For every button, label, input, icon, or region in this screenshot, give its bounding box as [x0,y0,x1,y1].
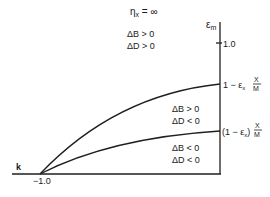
svg-text:X: X [255,122,260,129]
lower-curve-label: (1 − εx) X M [222,122,262,138]
svg-text:X: X [254,76,259,83]
region-middle: ΔB > 0 ΔD < 0 [172,104,200,126]
svg-text:ΔD < 0: ΔD < 0 [172,155,200,165]
diagram: ηx = ∞ 1.0 εm k −1.0 1 − εx X M (1 − εx)… [0,0,270,197]
x-tick-label: −1.0 [33,176,51,186]
svg-text:M: M [253,85,259,92]
svg-text:ΔB < 0: ΔB < 0 [172,143,199,153]
svg-text:ΔB > 0: ΔB > 0 [127,29,154,39]
svg-text:1 − εx: 1 − εx [223,80,245,91]
upper-curve-label: 1 − εx X M [223,76,261,92]
region-upper: ΔB > 0 ΔD > 0 [127,29,155,51]
y-tick-label: 1.0 [223,39,236,49]
svg-text:ΔD > 0: ΔD > 0 [127,41,155,51]
title: ηx = ∞ [130,6,158,18]
y-axis-label: εm [206,19,216,31]
svg-text:ΔD < 0: ΔD < 0 [172,116,200,126]
x-axis-label: k [16,162,22,172]
svg-text:M: M [254,131,260,138]
region-lower: ΔB < 0 ΔD < 0 [172,143,200,165]
svg-text:ΔB > 0: ΔB > 0 [172,104,199,114]
svg-text:(1 − εx): (1 − εx) [222,127,250,138]
